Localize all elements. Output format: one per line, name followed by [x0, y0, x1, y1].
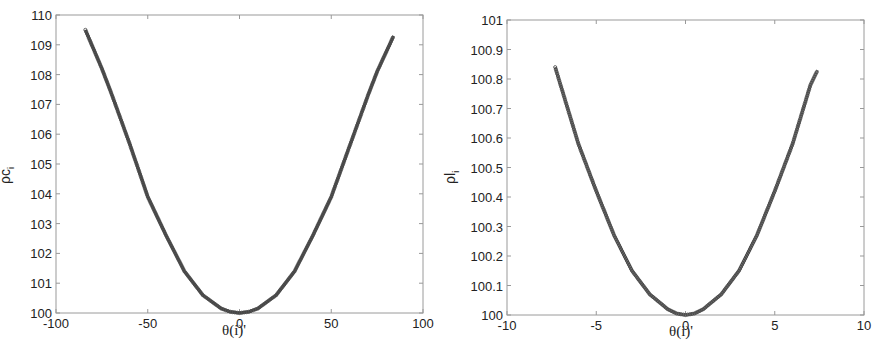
y-tick-label: 101 [481, 13, 503, 28]
left-plot: 100101102103104105106107108109110-100-50… [30, 8, 434, 331]
y-tick-label: 107 [30, 97, 52, 112]
y-tick-label: 108 [30, 68, 52, 83]
x-tick-label: 50 [324, 316, 338, 331]
left-plot-ylabel-main: ρc [0, 169, 13, 184]
plot-frame [56, 15, 423, 313]
y-tick-label: 110 [31, 8, 52, 23]
x-tick-label: -5 [590, 318, 602, 333]
left-plot-xlabel: θ(i)' [222, 322, 246, 339]
left-plot-ylabel: ρci [0, 167, 16, 184]
x-tick-label: 10 [857, 318, 871, 333]
y-tick-label: 103 [30, 217, 52, 232]
figure: 100101102103104105106107108109110-100-50… [0, 0, 876, 356]
y-tick-label: 101 [30, 276, 52, 291]
y-tick-label: 102 [30, 246, 52, 261]
right-plot-xlabel: θ(i)' [669, 323, 693, 340]
right-plot: 100100.1100.2100.3100.4100.5100.6100.710… [470, 13, 871, 333]
x-tick-label: -50 [138, 316, 157, 331]
x-tick-label: -10 [498, 318, 517, 333]
y-tick-label: 100.6 [470, 131, 503, 146]
y-tick-label: 100.5 [470, 161, 503, 176]
left-plot-ylabel-sub: i [6, 167, 16, 169]
y-tick-label: 100.4 [470, 190, 503, 205]
right-plot-ylabel-sub: i [451, 171, 461, 173]
y-tick-label: 100.9 [470, 43, 503, 58]
plot-frame [507, 20, 864, 315]
x-tick-label: -100 [43, 316, 69, 331]
y-tick-label: 100.8 [470, 72, 503, 87]
y-tick-label: 104 [30, 187, 52, 202]
y-tick-label: 100.7 [470, 102, 503, 117]
x-tick-label: 5 [771, 318, 778, 333]
y-tick-label: 109 [30, 38, 52, 53]
y-tick-label: 100.3 [470, 220, 503, 235]
y-tick-label: 100.2 [470, 249, 503, 264]
y-tick-label: 106 [30, 127, 52, 142]
y-tick-label: 100.1 [470, 279, 503, 294]
right-plot-ylabel-main: ρl [442, 173, 458, 184]
y-tick-label: 105 [30, 157, 52, 172]
x-tick-label: 100 [412, 316, 434, 331]
right-plot-ylabel: ρli [442, 171, 461, 184]
